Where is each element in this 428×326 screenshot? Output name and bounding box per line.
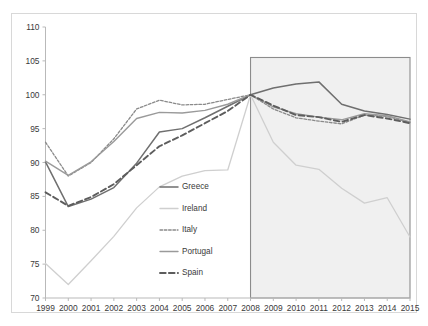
legend-label-greece: Greece [182, 182, 209, 191]
x-tick-label: 2001 [82, 303, 101, 313]
x-tick-label: 2009 [264, 303, 283, 313]
legend-label-spain: Spain [182, 268, 203, 277]
x-tick-label: 2004 [150, 303, 169, 313]
y-tick-label: 90 [30, 158, 40, 168]
y-tick-label: 95 [30, 124, 40, 134]
x-tick-label: 2003 [127, 303, 146, 313]
x-axis-tick-labels: 1999200020012002200320042005200620072008… [36, 303, 419, 313]
legend-label-portugal: Portugal [182, 247, 213, 256]
x-tick-label: 2015 [401, 303, 420, 313]
x-tick-label: 1999 [36, 303, 55, 313]
x-tick-label: 2014 [378, 303, 397, 313]
y-tick-label: 105 [26, 56, 40, 66]
x-tick-label: 2006 [196, 303, 215, 313]
x-tick-label: 2002 [105, 303, 124, 313]
chart-legend: GreeceIrelandItalyPortugalSpain [160, 182, 213, 277]
x-tick-label: 2013 [355, 303, 374, 313]
y-tick-label: 85 [30, 191, 40, 201]
y-axis-tick-labels: 707580859095100105110 [26, 22, 40, 303]
x-tick-label: 2011 [310, 303, 328, 313]
legend-label-italy: Italy [182, 225, 198, 234]
line-chart: 707580859095100105110 199920002001200220… [0, 0, 428, 326]
x-tick-label: 2008 [241, 303, 260, 313]
legend-label-ireland: Ireland [182, 204, 207, 213]
x-tick-label: 2000 [59, 303, 78, 313]
y-tick-label: 80 [30, 225, 40, 235]
y-tick-label: 110 [26, 22, 40, 32]
x-tick-label: 2005 [173, 303, 192, 313]
chart-container: 707580859095100105110 199920002001200220… [0, 0, 428, 326]
x-tick-label: 2007 [218, 303, 237, 313]
x-tick-label: 2012 [332, 303, 351, 313]
y-tick-label: 100 [26, 90, 40, 100]
y-tick-label: 75 [30, 259, 40, 269]
x-tick-label: 2010 [287, 303, 306, 313]
y-tick-label: 70 [30, 293, 40, 303]
